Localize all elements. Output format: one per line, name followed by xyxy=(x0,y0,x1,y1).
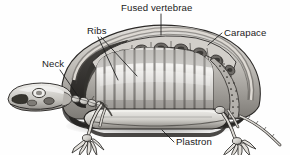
label-fused-vertebrae: Fused vertebrae xyxy=(121,2,192,13)
label-carapace: Carapace xyxy=(224,27,266,38)
label-ribs: Ribs xyxy=(87,25,107,36)
label-neck: Neck xyxy=(42,58,64,69)
skull xyxy=(8,83,72,111)
shell-cavity xyxy=(96,44,214,116)
label-plastron: Plastron xyxy=(176,136,212,147)
turtle-skeleton-illustration: Fused vertebrae Ribs Carapace Neck Plast… xyxy=(0,0,290,155)
turtle-anatomy-figure: Fused vertebrae Ribs Carapace Neck Plast… xyxy=(0,0,290,155)
